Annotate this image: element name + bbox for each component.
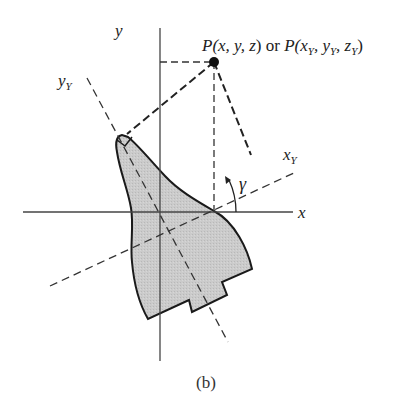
y-rotated-axis-label: yY: [56, 71, 74, 92]
figure-caption: (b): [196, 373, 216, 392]
angle-arc: [229, 180, 236, 212]
x-rotated-axis-label: xY: [282, 145, 299, 166]
shuttle-shape: [116, 135, 252, 319]
projection-to-y-rotated-axis: [127, 62, 214, 134]
projection-to-x-rotated-axis: [214, 62, 251, 155]
x-axis-label: x: [297, 203, 306, 222]
point-p-label: P(x, y, z) or P(xY, yY, zY): [201, 36, 363, 57]
point-p: [209, 57, 219, 67]
y-axis-label: y: [113, 21, 123, 40]
angle-gamma-label: γ: [239, 174, 247, 194]
coordinate-rotation-diagram: y x yY xY γ P(x, y, z) or P(xY, yY, zY) …: [0, 0, 418, 413]
